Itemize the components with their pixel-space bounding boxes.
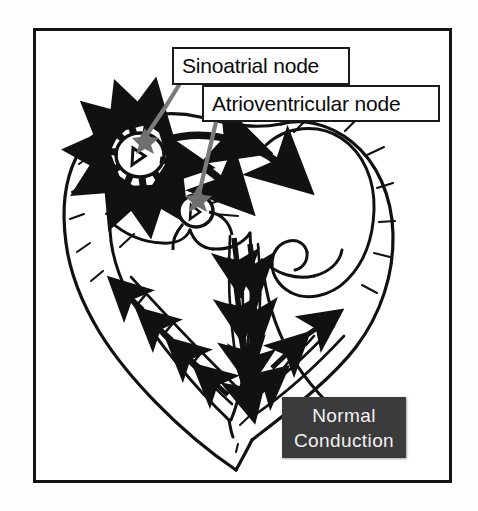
status-badge-line1: Normal — [312, 403, 376, 428]
status-badge: Normal Conduction — [282, 397, 406, 458]
purkinje-left-track — [118, 277, 246, 404]
right-atrium-structures — [266, 128, 374, 296]
callout-sinoatrial-node-label: Sinoatrial node — [182, 54, 319, 78]
apex-detail — [236, 408, 258, 452]
leader-line-sinoatrial — [146, 85, 179, 136]
callout-atrioventricular-node[interactable]: Atrioventricular node — [202, 85, 440, 122]
purkinje-left-arrows — [125, 293, 228, 395]
myocardium-striations-right — [294, 118, 395, 293]
callout-atrioventricular-node-label: Atrioventricular node — [212, 92, 400, 116]
status-badge-line2: Conduction — [294, 428, 394, 453]
screenshot-root: Sinoatrial node Atrioventricular node No… — [0, 0, 478, 511]
callout-sinoatrial-node[interactable]: Sinoatrial node — [172, 47, 350, 85]
